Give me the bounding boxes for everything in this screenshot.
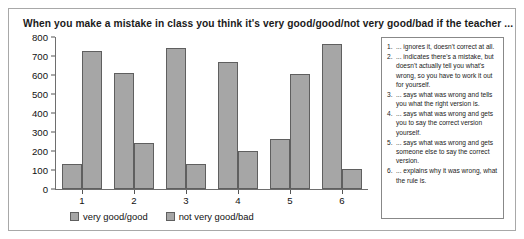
x-axis-tick-mark xyxy=(342,190,343,194)
key-item: 2.... indicates there's a mistake, but d… xyxy=(387,52,499,89)
bar-group xyxy=(322,37,362,189)
y-axis-tick-label: 100 xyxy=(32,165,48,176)
bar-group xyxy=(218,37,258,189)
key-item: 5.... says what was wrong and gets someo… xyxy=(387,138,499,166)
chart-title: When you make a mistake in class you thi… xyxy=(23,18,503,29)
key-item: 3.... says what was wrong and tells you … xyxy=(387,90,499,109)
x-axis-tick-label: 6 xyxy=(339,195,344,206)
bar-group xyxy=(114,37,154,189)
legend-label: not very good/bad xyxy=(179,211,254,222)
chart-legend: very good/goodnot very good/bad xyxy=(70,211,254,222)
y-axis-tick-label: 200 xyxy=(32,146,48,157)
key-item-number: 5. xyxy=(387,138,396,166)
chart-figure: When you make a mistake in class you thi… xyxy=(8,8,516,231)
bar[interactable] xyxy=(290,74,310,189)
legend-entry[interactable]: not very good/bad xyxy=(166,211,254,222)
bar[interactable] xyxy=(270,139,290,189)
bars-area xyxy=(56,37,368,189)
key-item-number: 3. xyxy=(387,90,396,109)
bar[interactable] xyxy=(322,44,342,189)
bar-group xyxy=(166,37,206,189)
legend-entry[interactable]: very good/good xyxy=(70,211,148,222)
key-item: 6.... explains why it was wrong, what th… xyxy=(387,166,499,185)
bar[interactable] xyxy=(166,48,186,189)
bar[interactable] xyxy=(238,151,258,189)
y-axis: 0100200300400500600700800 xyxy=(23,37,51,189)
bar-group xyxy=(270,37,310,189)
y-axis-tick-label: 800 xyxy=(32,32,48,43)
key-item-text: ... says what was wrong and gets you to … xyxy=(396,109,499,137)
legend-swatch-icon xyxy=(166,212,175,221)
bar[interactable] xyxy=(342,169,362,189)
legend-label: very good/good xyxy=(83,211,148,222)
x-axis-tick-mark xyxy=(134,190,135,194)
key-item-text: ... says what was wrong and tells you wh… xyxy=(396,90,499,109)
bar[interactable] xyxy=(62,164,82,189)
bar[interactable] xyxy=(134,143,154,189)
y-axis-tick-label: 600 xyxy=(32,70,48,81)
key-item-text: ... ignores it, doesn't correct at all. xyxy=(396,42,499,51)
key-item: 1.... ignores it, doesn't correct at all… xyxy=(387,42,499,51)
x-axis-tick-mark xyxy=(82,190,83,194)
key-item-number: 6. xyxy=(387,166,396,185)
x-axis-tick-label: 4 xyxy=(235,195,240,206)
key-legend-box: 1.... ignores it, doesn't correct at all… xyxy=(381,37,504,219)
key-item-text: ... indicates there's a mistake, but doe… xyxy=(396,52,499,89)
x-axis-tick-label: 1 xyxy=(79,195,84,206)
y-axis-tick-label: 300 xyxy=(32,127,48,138)
legend-swatch-icon xyxy=(70,212,79,221)
y-axis-tick-label: 400 xyxy=(32,108,48,119)
x-axis-tick-mark xyxy=(290,190,291,194)
plot-region: 0100200300400500600700800 very good/good… xyxy=(23,37,373,223)
y-axis-tick-label: 0 xyxy=(43,184,48,195)
bar[interactable] xyxy=(82,51,102,189)
key-item-number: 2. xyxy=(387,52,396,89)
key-item-number: 4. xyxy=(387,109,396,137)
y-axis-tick-label: 700 xyxy=(32,51,48,62)
bar[interactable] xyxy=(218,62,238,189)
x-axis-tick-mark xyxy=(238,190,239,194)
x-axis-tick-label: 3 xyxy=(183,195,188,206)
bar[interactable] xyxy=(186,164,206,189)
key-item-text: ... explains why it was wrong, what the … xyxy=(396,166,499,185)
x-axis-line xyxy=(55,189,368,190)
x-axis-tick-label: 5 xyxy=(287,195,292,206)
bar-group xyxy=(62,37,102,189)
x-axis-tick-mark xyxy=(186,190,187,194)
key-item: 4.... says what was wrong and gets you t… xyxy=(387,109,499,137)
y-axis-tick-label: 500 xyxy=(32,89,48,100)
key-item-number: 1. xyxy=(387,42,396,51)
x-axis-tick-label: 2 xyxy=(131,195,136,206)
bar[interactable] xyxy=(114,73,134,189)
key-item-text: ... says what was wrong and gets someone… xyxy=(396,138,499,166)
